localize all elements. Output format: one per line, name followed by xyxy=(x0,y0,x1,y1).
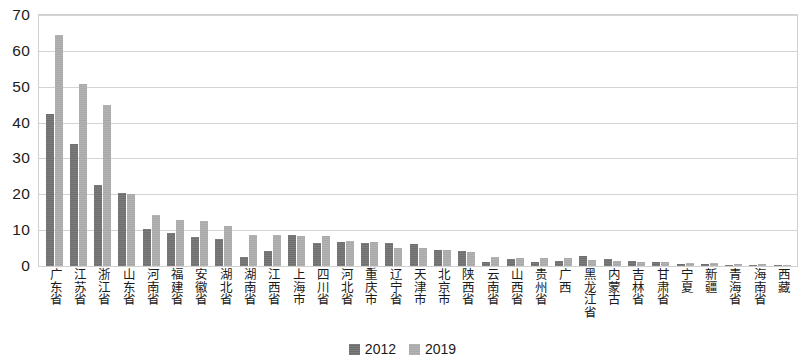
bar-2019-河南省[interactable] xyxy=(152,215,160,266)
bar-2012-西藏[interactable] xyxy=(774,265,782,266)
bar-2019-浙江省[interactable] xyxy=(103,105,111,266)
bar-2012-上海市[interactable] xyxy=(288,235,296,266)
bar-2012-宁夏[interactable] xyxy=(677,264,685,267)
y-axis-tick-label: 10 xyxy=(12,221,30,239)
bar-2019-四川省[interactable] xyxy=(322,236,330,266)
y-axis: 010203040506070 xyxy=(0,14,34,267)
x-axis-label-1: 江苏省 xyxy=(72,268,85,306)
x-axis-label-cell: 天津市 xyxy=(406,268,430,336)
x-axis-label-26: 宁夏 xyxy=(679,268,692,293)
bar-2012-吉林省[interactable] xyxy=(628,261,636,266)
bar-2019-黑龙江省[interactable] xyxy=(588,260,596,266)
chart-legend: 20122019 xyxy=(0,338,805,360)
bar-2012-甘肃省[interactable] xyxy=(652,262,660,266)
bar-group xyxy=(430,15,454,266)
bar-2012-新疆[interactable] xyxy=(701,264,709,266)
bar-2012-四川省[interactable] xyxy=(313,243,321,266)
y-axis-tick-label: 40 xyxy=(12,114,30,132)
bar-2019-宁夏[interactable] xyxy=(686,263,694,266)
bar-2019-甘肃省[interactable] xyxy=(661,262,669,266)
bar-2012-重庆市[interactable] xyxy=(361,243,369,266)
bar-2012-河南省[interactable] xyxy=(143,229,151,266)
bar-2012-山东省[interactable] xyxy=(118,193,126,266)
x-axis-label-29: 海南省 xyxy=(752,268,765,306)
bar-group xyxy=(770,15,794,266)
bar-2012-贵州省[interactable] xyxy=(531,262,539,266)
bar-2019-上海市[interactable] xyxy=(297,236,305,266)
bar-2019-江苏省[interactable] xyxy=(79,84,87,266)
bar-2019-安徽省[interactable] xyxy=(200,221,208,266)
bar-2012-北京市[interactable] xyxy=(434,250,442,266)
bar-2019-海南省[interactable] xyxy=(758,264,766,266)
bar-group xyxy=(721,15,745,266)
bar-2019-山西省[interactable] xyxy=(516,258,524,266)
bar-2019-北京市[interactable] xyxy=(443,250,451,266)
bar-group xyxy=(503,15,527,266)
bar-2019-广西[interactable] xyxy=(564,258,572,266)
bar-2019-云南省[interactable] xyxy=(491,257,499,266)
bar-series-container xyxy=(39,15,797,266)
x-axis-label-6: 安徽省 xyxy=(193,268,206,306)
x-axis-label-22: 黑龙江省 xyxy=(582,268,595,318)
bar-2019-辽宁省[interactable] xyxy=(394,248,402,266)
bar-2019-山东省[interactable] xyxy=(127,194,135,266)
x-axis-label-cell: 西藏 xyxy=(770,268,794,336)
bar-2019-吉林省[interactable] xyxy=(637,262,645,266)
bar-2019-湖南省[interactable] xyxy=(249,235,257,266)
bar-2012-海南省[interactable] xyxy=(749,265,757,266)
y-axis-tick-label: 20 xyxy=(12,185,30,203)
legend-swatch-icon xyxy=(409,344,420,355)
bar-2012-湖南省[interactable] xyxy=(240,257,248,266)
x-axis-label-cell: 广东省 xyxy=(42,268,66,336)
bar-2012-黑龙江省[interactable] xyxy=(579,256,587,266)
bar-2019-重庆市[interactable] xyxy=(370,242,378,266)
legend-item-2012[interactable]: 2012 xyxy=(349,341,396,357)
bar-group xyxy=(357,15,381,266)
bar-group xyxy=(188,15,212,266)
bar-2012-福建省[interactable] xyxy=(167,233,175,266)
bar-2019-广东省[interactable] xyxy=(55,35,63,266)
bar-2019-福建省[interactable] xyxy=(176,220,184,266)
bar-2012-广东省[interactable] xyxy=(46,114,54,266)
bar-2019-内蒙古[interactable] xyxy=(613,261,621,266)
bar-2012-安徽省[interactable] xyxy=(191,237,199,266)
bar-group xyxy=(309,15,333,266)
bar-chart: 010203040506070 广东省江苏省浙江省山东省河南省福建省安徽省湖北省… xyxy=(0,0,805,362)
y-axis-tick-label: 50 xyxy=(12,78,30,96)
x-axis-label-cell: 北京市 xyxy=(430,268,454,336)
x-axis-label-12: 河北省 xyxy=(339,268,352,306)
bar-2019-湖北省[interactable] xyxy=(224,226,232,266)
bar-2012-浙江省[interactable] xyxy=(94,185,102,266)
x-axis-label-cell: 辽宁省 xyxy=(382,268,406,336)
x-axis-label-cell: 陕西省 xyxy=(455,268,479,336)
bar-2012-天津市[interactable] xyxy=(410,244,418,266)
bar-2019-贵州省[interactable] xyxy=(540,258,548,266)
bar-2019-陕西省[interactable] xyxy=(467,252,475,266)
bar-group xyxy=(163,15,187,266)
bar-2012-云南省[interactable] xyxy=(482,262,490,266)
y-axis-tick-label: 30 xyxy=(12,149,30,167)
bar-2012-江西省[interactable] xyxy=(264,251,272,266)
bar-2012-广西[interactable] xyxy=(555,261,563,266)
bar-2012-陕西省[interactable] xyxy=(458,251,466,266)
bar-group xyxy=(406,15,430,266)
x-axis-label-19: 山西省 xyxy=(509,268,522,306)
bar-2012-湖北省[interactable] xyxy=(215,239,223,266)
bar-2019-河北省[interactable] xyxy=(346,241,354,266)
bar-2019-新疆[interactable] xyxy=(710,263,718,266)
bar-2012-青海省[interactable] xyxy=(725,265,733,266)
bar-2019-西藏[interactable] xyxy=(783,265,791,266)
bar-2012-山西省[interactable] xyxy=(507,259,515,266)
x-axis-label-15: 天津市 xyxy=(412,268,425,306)
bar-2019-青海省[interactable] xyxy=(734,264,742,266)
bar-2012-内蒙古[interactable] xyxy=(604,259,612,266)
bar-group xyxy=(115,15,139,266)
bar-2019-天津市[interactable] xyxy=(419,248,427,266)
bar-2012-江苏省[interactable] xyxy=(70,144,78,266)
bar-2019-江西省[interactable] xyxy=(273,235,281,266)
x-axis-label-4: 河南省 xyxy=(145,268,158,306)
bar-group xyxy=(42,15,66,266)
bar-2012-辽宁省[interactable] xyxy=(385,243,393,266)
legend-item-2019[interactable]: 2019 xyxy=(409,341,456,357)
bar-2012-河北省[interactable] xyxy=(337,242,345,266)
